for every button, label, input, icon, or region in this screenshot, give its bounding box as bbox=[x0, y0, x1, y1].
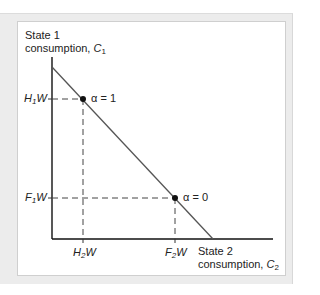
y-tick-label-f1w: F1W bbox=[25, 191, 47, 204]
y-tick-label-h1w: H1W bbox=[24, 92, 47, 105]
x-tick-label-f2w: F2W bbox=[165, 246, 187, 259]
point-alpha-0 bbox=[172, 195, 178, 201]
annotation-alpha-1: α = 1 bbox=[91, 92, 116, 105]
budget-line bbox=[52, 67, 213, 239]
point-alpha-1 bbox=[80, 96, 86, 102]
x-tick-label-h2w: H2W bbox=[73, 246, 96, 259]
x-axis-label: State 2 consumption, C2 bbox=[198, 245, 279, 271]
annotation-alpha-0: α = 0 bbox=[183, 191, 208, 204]
y-axis-label: State 1 consumption, C1 bbox=[25, 29, 106, 55]
